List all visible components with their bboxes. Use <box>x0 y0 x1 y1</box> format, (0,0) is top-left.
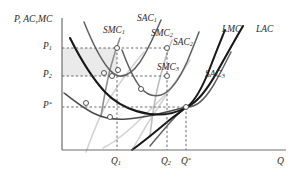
curve-label-LAC: LAC <box>256 25 273 34</box>
marker-p2-lac <box>102 71 107 76</box>
marker-p2-smc2 <box>165 74 170 79</box>
curve-label-SAC1: SAC1 <box>137 14 157 24</box>
marker-sac1-tangency <box>116 68 121 73</box>
y-tick-label-P2: P2 <box>43 70 52 80</box>
curve-label-LMC: LMC <box>222 25 241 34</box>
marker-lower-left <box>84 101 89 106</box>
curve-label-SAC3: SAC3 <box>205 70 225 80</box>
x-tick-label-Q1: Q1 <box>111 157 121 167</box>
y-axis-title: P, AC,MC <box>14 14 52 24</box>
y-tick-label-P1: P1 <box>43 42 52 52</box>
marker-qstar-tangency <box>184 105 189 110</box>
plot-canvas <box>0 0 293 181</box>
curve-label-SMC2: SMC2 <box>151 29 173 39</box>
curve-label-SMC1: SMC1 <box>103 26 125 36</box>
marker-sac2-mid <box>139 87 144 92</box>
x-axis-title: Q <box>277 156 284 166</box>
curve-label-SMC3: SMC3 <box>157 63 179 73</box>
marker-p2-sac1min <box>110 74 115 79</box>
curve-label-SAC2: SAC2 <box>173 38 193 48</box>
smc3-curve <box>103 64 186 148</box>
cost-curve-figure: P, AC,MC Q P1 P2 P* Q1 Q2 Q* SMC1 SAC1 S… <box>0 0 293 181</box>
marker-p1-smc2 <box>165 46 170 51</box>
x-tick-label-Q2: Q2 <box>161 157 171 167</box>
marker-p1-smc1 <box>115 46 120 51</box>
y-tick-label-Pstar: P* <box>43 101 52 111</box>
x-tick-label-Qstar: Q* <box>181 157 191 167</box>
marker-q1-lower <box>108 115 113 120</box>
